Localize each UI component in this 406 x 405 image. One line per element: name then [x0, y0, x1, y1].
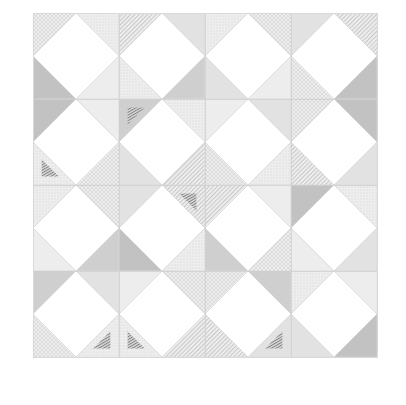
quilt-block[interactable]: [33, 99, 119, 185]
quilt-block[interactable]: [119, 271, 205, 357]
quilt-block[interactable]: [119, 185, 205, 271]
quilt-block[interactable]: [33, 271, 119, 357]
quilt-block[interactable]: [205, 13, 291, 99]
quilt-block-grid[interactable]: [33, 13, 377, 357]
quilt-block[interactable]: [205, 99, 291, 185]
quilt-block[interactable]: [291, 99, 377, 185]
quilt-block[interactable]: [33, 13, 119, 99]
quilt-preview-page: Quilt Block Layout: [0, 0, 406, 405]
quilt-block[interactable]: [119, 13, 205, 99]
quilt-block[interactable]: [291, 185, 377, 271]
quilt-block[interactable]: [291, 13, 377, 99]
quilt-block[interactable]: [33, 185, 119, 271]
quilt-block[interactable]: [119, 99, 205, 185]
quilt-block[interactable]: [205, 271, 291, 357]
quilt-layout-canvas[interactable]: [0, 0, 406, 405]
quilt-block[interactable]: [291, 271, 377, 357]
quilt-block[interactable]: [205, 185, 291, 271]
